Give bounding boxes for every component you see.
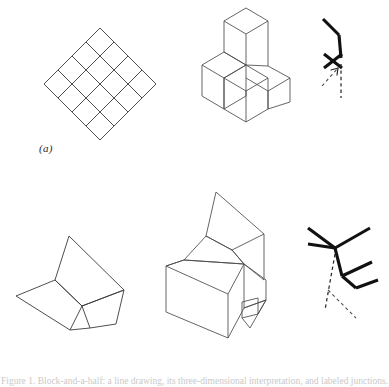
flat-polygon-fold-panel [8,228,138,340]
block-with-flap-svg [154,188,290,346]
row-label-a: (a) [39,142,53,154]
junction-label-double-y-panel [298,224,382,332]
figure-caption: Figure 1. Block-and-a-half: a line drawi… [0,376,389,387]
junction-label-arrow-svg [316,14,376,104]
flat-polygon-fold-svg [8,228,138,340]
junction-label-arrow-panel [316,14,376,104]
figure-row-a: (a) [0,0,389,180]
stepped-block-tower-panel [196,4,306,136]
stepped-block-tower-svg [196,4,306,136]
figure-caption-number: Figure 1. [1,376,35,386]
figure-row-b: (b) [0,180,389,360]
block-with-flap-panel [154,188,290,346]
flat-diamond-grid-svg [28,18,178,148]
junction-label-double-y-svg [298,224,382,332]
flat-diamond-grid-panel [28,18,178,148]
figure-caption-text: Block-and-a-half: a line drawing, its th… [38,376,388,386]
figure-sheet: (a) [0,0,389,387]
